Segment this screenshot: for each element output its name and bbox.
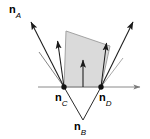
label-n-c: nC <box>55 92 68 106</box>
figure-canvas <box>0 0 150 139</box>
label-n-a-subscript: A <box>16 11 21 20</box>
label-n-c-symbol: n <box>55 91 62 103</box>
label-n-c-subscript: C <box>62 99 68 108</box>
label-n-d: nD <box>99 92 112 106</box>
point-nD <box>98 84 103 89</box>
label-n-b-subscript: B <box>81 128 86 137</box>
vector-geometry-figure: nA nC nD nB <box>0 0 150 139</box>
point-nC <box>61 84 66 89</box>
label-n-d-subscript: D <box>106 99 112 108</box>
label-n-a-symbol: n <box>9 3 16 15</box>
label-n-b-symbol: n <box>74 120 81 132</box>
label-n-d-symbol: n <box>99 91 106 103</box>
shaded-quadrilateral <box>64 31 110 87</box>
label-n-b: nB <box>74 121 86 135</box>
label-n-a: nA <box>9 4 21 18</box>
